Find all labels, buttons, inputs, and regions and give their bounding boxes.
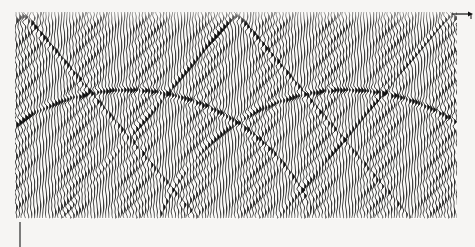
seismic-figure <box>0 0 475 247</box>
x-axis-arrow-head <box>468 11 473 16</box>
seismic-wiggle-plot[interactable] <box>15 12 457 219</box>
